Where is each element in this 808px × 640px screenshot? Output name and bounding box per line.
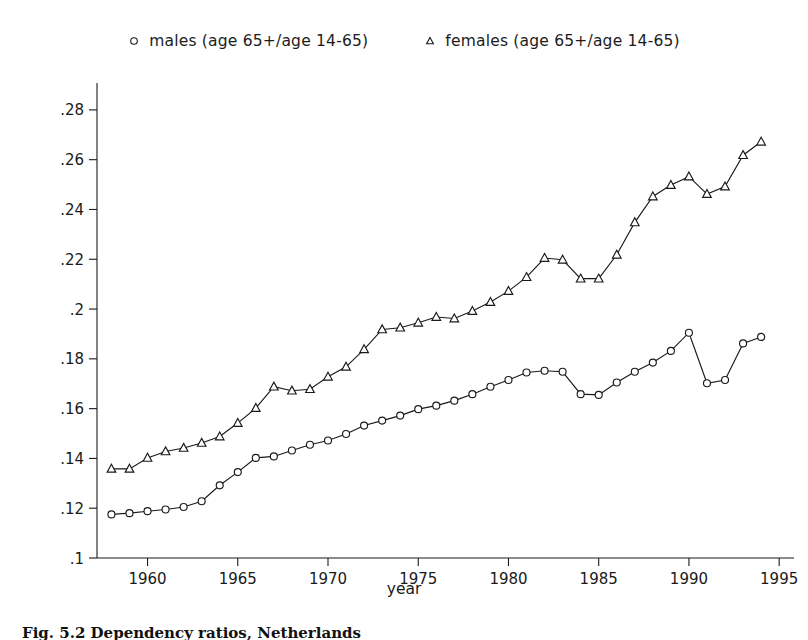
- series-line-triangle: [111, 142, 761, 469]
- data-point-triangle: [233, 418, 242, 426]
- x-axis-tick-label: 1970: [309, 570, 347, 588]
- data-point-circle: [216, 482, 223, 489]
- data-point-triangle: [504, 287, 513, 295]
- data-point-triangle: [432, 312, 441, 320]
- y-axis-tick-label: .14: [60, 450, 84, 468]
- data-point-circle: [343, 431, 350, 438]
- data-point-circle: [108, 511, 115, 518]
- data-point-triangle: [649, 192, 658, 200]
- data-point-triangle: [215, 432, 224, 440]
- data-point-circle: [325, 437, 332, 444]
- data-point-circle: [487, 383, 494, 390]
- data-point-triangle: [540, 253, 549, 261]
- y-axis-tick-label: .22: [60, 251, 84, 269]
- data-point-triangle: [721, 182, 730, 190]
- y-axis-tick-label: .28: [60, 101, 84, 119]
- y-axis-tick-label: .12: [60, 500, 84, 518]
- x-axis-tick-label: 1990: [670, 570, 708, 588]
- x-axis-title: year: [387, 580, 422, 598]
- x-axis-tick-label: 1985: [580, 570, 618, 588]
- data-point-triangle: [324, 372, 333, 380]
- data-point-circle: [198, 498, 205, 505]
- data-point-circle: [180, 503, 187, 510]
- y-axis-tick-label: .1: [70, 550, 84, 568]
- data-point-circle: [270, 453, 277, 460]
- data-point-triangle: [486, 297, 495, 305]
- y-axis-tick-label: .16: [60, 400, 84, 418]
- x-axis-tick-label: 1980: [489, 570, 527, 588]
- data-point-circle: [740, 340, 747, 347]
- data-point-triangle: [685, 172, 694, 180]
- data-point-circle: [758, 333, 765, 340]
- data-point-circle: [379, 417, 386, 424]
- data-point-circle: [234, 469, 241, 476]
- data-point-triangle: [667, 180, 676, 188]
- data-point-circle: [703, 380, 710, 387]
- data-point-circle: [306, 441, 313, 448]
- figure-caption: Fig. 5.2 Dependency ratios, Netherlands: [22, 624, 361, 640]
- data-point-circle: [685, 329, 692, 336]
- data-point-triangle: [612, 250, 621, 258]
- data-point-triangle: [757, 137, 766, 145]
- data-point-circle: [613, 379, 620, 386]
- x-axis-tick-label: 1995: [760, 570, 798, 588]
- y-axis-tick-label: .24: [60, 201, 84, 219]
- x-axis-tick-label: 1960: [128, 570, 166, 588]
- data-point-circle: [649, 359, 656, 366]
- y-axis-tick-label: .26: [60, 151, 84, 169]
- data-point-circle: [722, 377, 729, 384]
- data-point-circle: [361, 422, 368, 429]
- y-axis-tick-label: .18: [60, 350, 84, 368]
- data-point-triangle: [739, 151, 748, 159]
- data-point-triangle: [306, 385, 315, 393]
- data-point-circle: [469, 391, 476, 398]
- data-point-circle: [397, 412, 404, 419]
- data-point-circle: [144, 508, 151, 515]
- data-point-circle: [162, 506, 169, 513]
- data-point-circle: [559, 368, 566, 375]
- data-point-circle: [577, 391, 584, 398]
- data-point-triangle: [270, 382, 279, 390]
- data-point-circle: [595, 391, 602, 398]
- data-point-circle: [415, 406, 422, 413]
- x-axis-tick-label: 1965: [219, 570, 257, 588]
- data-point-circle: [523, 369, 530, 376]
- y-axis-tick-label: .2: [70, 301, 84, 319]
- data-point-circle: [667, 347, 674, 354]
- data-point-triangle: [107, 464, 116, 472]
- data-point-triangle: [468, 306, 477, 314]
- data-point-circle: [252, 454, 259, 461]
- data-point-triangle: [125, 464, 134, 472]
- data-point-circle: [451, 397, 458, 404]
- data-point-circle: [505, 377, 512, 384]
- data-point-circle: [631, 368, 638, 375]
- data-point-circle: [288, 447, 295, 454]
- series-line-circle: [111, 333, 761, 515]
- data-point-circle: [541, 367, 548, 374]
- data-point-circle: [433, 402, 440, 409]
- data-point-circle: [126, 510, 133, 517]
- chart-series: [107, 137, 765, 518]
